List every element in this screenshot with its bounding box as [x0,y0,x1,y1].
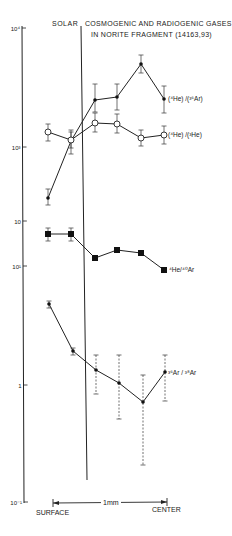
series-line [48,234,164,270]
data-point [92,255,98,261]
data-point [45,231,51,237]
scale-bar: 1mm [53,497,167,507]
data-point [141,400,145,404]
chart: 10⁴10³1010¹110⁻¹ SOLAR COSMOGENIC AND RA… [0,0,232,536]
series-1 [45,113,167,148]
data-point [114,121,120,127]
y-tick-label: 10⁻¹ [10,500,22,506]
series-2 [45,228,167,273]
data-point [161,132,167,138]
y-tick-label: 10⁴ [11,26,21,32]
series-label: (⁴He) /(³He) [168,131,202,139]
data-point [117,381,121,385]
data-point [92,120,98,126]
data-point [94,368,98,372]
series-0 [46,55,167,205]
data-series [45,55,168,465]
data-point [46,196,50,200]
series-labels: (⁴He) /(³⁶Ar)(⁴He) /(³He)⁴He/⁴⁰Ar³⁶Ar / … [168,95,203,376]
series-line [48,64,164,198]
solar-boundary-line [81,26,87,480]
data-point [138,135,144,141]
data-point [115,95,119,99]
data-point [163,370,167,374]
x-label-surface: SURFACE [36,509,69,516]
y-axis: 10⁴10³1010¹110⁻¹ [10,26,28,506]
y-axis-line [22,26,24,503]
data-point [68,137,74,143]
series-3 [47,301,168,465]
data-point [161,267,167,273]
data-point [162,97,166,101]
data-point [138,250,144,256]
data-point [47,302,51,306]
data-point [71,349,75,353]
x-label-center: CENTER [152,506,181,513]
series-line [48,123,164,140]
data-point [45,129,51,135]
data-point [114,247,120,253]
series-label: ³⁶Ar / ³⁸Ar [168,369,197,376]
y-tick-label: 10¹ [12,264,21,270]
scale-label: 1mm [103,499,119,506]
series-label: ⁴He/⁴⁰Ar [169,266,195,273]
solar-label: SOLAR [52,20,78,27]
data-point [93,98,97,102]
series-label: (⁴He) /(³⁶Ar) [168,95,203,103]
y-tick-label: 10³ [12,145,21,151]
data-point [68,231,74,237]
series-line [49,304,165,402]
chart-title-line2: IN NORITE FRAGMENT (14163,93) [91,31,212,39]
chart-title-line1: COSMOGENIC AND RADIOGENIC GASES [85,20,232,27]
data-point [139,62,143,66]
y-tick-label: 1 [18,383,22,389]
y-tick-label: 10 [14,219,21,225]
